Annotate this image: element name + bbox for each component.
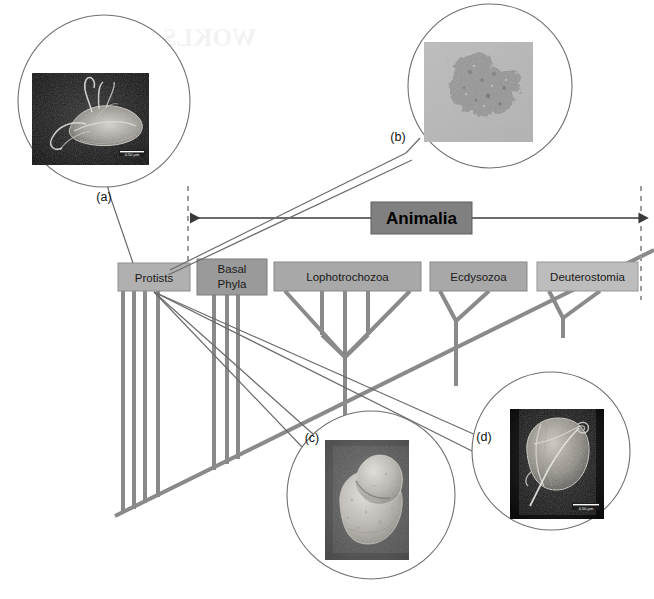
inset-c: (c) xyxy=(287,411,455,579)
leader-line-d1 xyxy=(154,292,478,436)
panel-letter-d: (d) xyxy=(476,430,491,444)
branch-deut-2 xyxy=(563,291,600,318)
figure-canvas: WOKLS-4uqriq] xyxy=(0,0,654,599)
scale-bar-d: 0.50 µm xyxy=(572,503,600,511)
panel-letter-a: (a) xyxy=(96,190,111,204)
phylogeny-figure: WOKLS-4uqriq] xyxy=(0,0,654,599)
taxon-label-basal-phyla-line1: Basal xyxy=(218,263,247,275)
branch-lopho-node xyxy=(322,335,345,357)
scale-bar-a-text: 0.50 µm xyxy=(125,152,140,157)
taxon-boxes: Protists Basal Phyla Lophotrochozoa Ecdy… xyxy=(118,259,638,295)
leader-line-d2 xyxy=(154,292,474,452)
taxon-box-deuterostomia[interactable]: Deuterostomia xyxy=(537,262,638,291)
panel-letter-c: (c) xyxy=(305,431,320,445)
inset-leader-lines xyxy=(104,138,496,470)
scale-bar-d-text: 0.50 µm xyxy=(579,506,594,511)
branch-ecdy-1 xyxy=(440,291,456,321)
taxon-label-deuterostomia: Deuterostomia xyxy=(550,271,625,283)
inset-b: (b) xyxy=(390,4,572,168)
scale-bar-a: 0.50 µm xyxy=(119,150,145,157)
taxon-box-ecdysozoa[interactable]: Ecdysozoa xyxy=(430,262,527,291)
panel-letter-b: (b) xyxy=(390,130,405,144)
taxon-label-protists: Protists xyxy=(135,272,174,284)
branch-lopho-node2 xyxy=(345,335,368,357)
taxon-box-lophotrochozoa[interactable]: Lophotrochozoa xyxy=(274,262,421,291)
animalia-label: Animalia xyxy=(386,209,457,228)
inset-a: 0.50 µm (a) xyxy=(18,15,190,204)
taxon-label-ecdysozoa: Ecdysozoa xyxy=(450,271,507,283)
branch-ecdy-2 xyxy=(456,291,489,321)
taxon-box-basal-phyla[interactable]: Basal Phyla xyxy=(197,259,267,295)
taxon-label-lophotrochozoa: Lophotrochozoa xyxy=(306,271,389,283)
leader-kink-b xyxy=(406,138,420,153)
taxon-box-protists[interactable]: Protists xyxy=(118,263,190,291)
inset-d: 0.50 µm (d) xyxy=(472,372,630,530)
taxon-label-basal-phyla-line2: Phyla xyxy=(218,278,247,290)
